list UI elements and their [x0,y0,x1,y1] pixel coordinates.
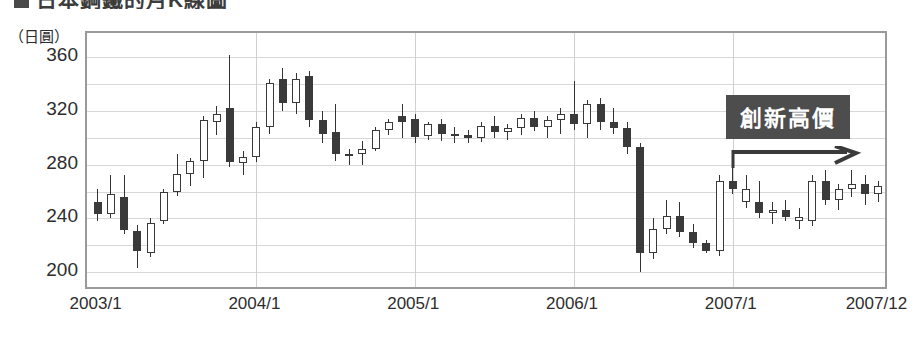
page-title: 日本鋼鐵的月K線圖 [0,0,920,9]
x-axis-tick-label: 2006/1 [546,294,598,314]
page-title-text: 日本鋼鐵的月K線圖 [36,0,228,9]
candle-body [861,184,869,195]
candle-body [279,79,287,103]
candle-body [451,134,459,137]
y-axis-tick-labels: 360320280240200 [8,31,78,289]
candle-body [438,124,446,133]
candle-body [292,79,300,103]
candle-body [213,114,221,122]
candle-body [874,186,882,194]
candle-body [491,126,499,133]
candle-body [610,122,618,129]
x-axis-tick-labels: 2003/12004/12005/12006/12007/12007/12 [0,294,920,320]
x-axis-tick-label: 2007/1 [705,294,757,314]
candle-wick [507,124,508,140]
x-axis-tick-label: 2003/1 [70,294,122,314]
bullet-square-icon [14,0,29,8]
candle-body [530,118,538,127]
annotation-label: 創新高價 [726,95,850,139]
candle-body [411,119,419,137]
y-axis-tick-label: 240 [12,205,78,227]
candle-body [570,114,578,125]
candle-body [795,217,803,221]
candle-body [822,181,830,200]
right-arrow-icon [731,146,863,170]
x-axis-tick-label: 2005/1 [387,294,439,314]
candle-body [226,108,234,162]
y-axis-tick-label: 320 [12,98,78,120]
candle-body [186,161,194,174]
candle-body [755,202,763,213]
candle-body [200,120,208,160]
candle-body [676,216,684,232]
x-axis-tick-label: 2007/12 [846,294,907,314]
candle-wick [243,151,244,175]
candle-body [504,128,512,132]
candle-body [332,132,340,154]
candle-body [848,184,856,189]
candle-body [305,76,313,120]
candle-body [623,128,631,147]
y-axis-tick-label: 280 [12,152,78,174]
candle-wick [349,149,350,165]
candle-body [385,122,393,130]
candle-body [557,114,565,121]
candle-body [808,181,816,221]
candle-body [769,210,777,213]
candle-body [133,231,141,251]
candle-body [120,197,128,231]
y-axis-tick-label: 360 [12,44,78,66]
candle-body [782,210,790,217]
candle-body [358,149,366,154]
candle-body [424,124,432,136]
candle-body [398,116,406,121]
candle-body [663,216,671,229]
candle-body [729,181,737,189]
candle-body [583,104,591,124]
candle-body [702,243,710,251]
candle-body [372,130,380,149]
candle-body [636,147,644,253]
candle-body [716,181,724,251]
candle-body [239,157,247,164]
candle-body [477,126,485,138]
candle-body [266,83,274,127]
candle-body [544,120,552,127]
candle-body [649,229,657,253]
candle-body [252,127,260,157]
x-axis-tick-label: 2004/1 [228,294,280,314]
candle-body [742,189,750,202]
candle-body [173,174,181,192]
candle-body [160,192,168,222]
candle-body [345,154,353,157]
candle-body [835,189,843,200]
y-axis-tick-label: 200 [12,259,78,281]
candle-body [464,135,472,138]
candle-body [147,223,155,254]
candle-wick [560,108,561,134]
candle-body [107,194,115,214]
candle-body [597,104,605,122]
candle-body [319,120,327,133]
candle-body [689,232,697,243]
candle-body [517,118,525,129]
candle-body [94,202,102,214]
